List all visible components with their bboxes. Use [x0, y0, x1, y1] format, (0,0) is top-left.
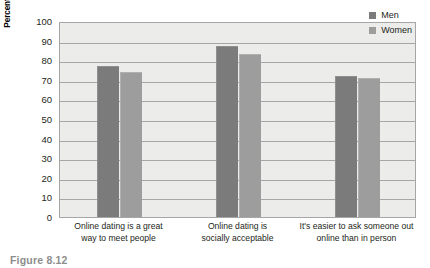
- legend-label: Men: [381, 10, 399, 20]
- y-tick-label: 90: [41, 36, 52, 48]
- bar-men-3[interactable]: [335, 76, 357, 217]
- x-category-label-line: socially acceptable: [178, 233, 297, 245]
- bar-group: [216, 23, 261, 217]
- x-category-label-3: It's easier to ask someone outonline tha…: [297, 221, 416, 244]
- x-category-label-2: Online dating issocially acceptable: [178, 221, 297, 244]
- bar-group: [335, 23, 380, 217]
- y-tick-label: 10: [41, 192, 52, 204]
- y-tick-label: 40: [41, 134, 52, 146]
- y-axis-title: Percent agreeing with each statement: [0, 0, 16, 54]
- figure-caption: Figure 8.12: [10, 254, 68, 266]
- x-category-label-line: Online dating is a great: [59, 221, 178, 233]
- bars-layer: [60, 23, 415, 217]
- y-tick-label: 80: [41, 55, 52, 67]
- y-tick-label: 70: [41, 75, 52, 87]
- y-tick-label: 20: [41, 173, 52, 185]
- x-category-label-line: It's easier to ask someone out: [297, 221, 416, 233]
- legend-item-women[interactable]: Women: [369, 23, 412, 37]
- legend: MenWomen: [367, 6, 416, 40]
- bar-women-3[interactable]: [358, 78, 380, 217]
- x-category-label-1: Online dating is a greatway to meet peop…: [59, 221, 178, 244]
- x-category-label-line: Online dating is: [178, 221, 297, 233]
- plot-area: [59, 22, 416, 218]
- y-tick-label: 60: [41, 94, 52, 106]
- y-tick-label: 0: [47, 212, 52, 224]
- legend-swatch-icon: [369, 12, 376, 19]
- y-tick-label: 30: [41, 153, 52, 165]
- bar-women-1[interactable]: [120, 72, 142, 217]
- legend-swatch-icon: [369, 27, 376, 34]
- legend-item-men[interactable]: Men: [369, 8, 412, 22]
- bar-men-1[interactable]: [97, 66, 119, 217]
- y-tick-label: 50: [41, 114, 52, 126]
- y-axis-tick-labels: 1009080706050403020100: [24, 22, 56, 218]
- x-category-label-line: online than in person: [297, 233, 416, 245]
- x-category-label-line: way to meet people: [59, 233, 178, 245]
- x-axis-category-labels: Online dating is a greatway to meet peop…: [59, 221, 416, 247]
- bar-men-2[interactable]: [216, 46, 238, 217]
- legend-label: Women: [381, 25, 412, 35]
- bar-women-2[interactable]: [239, 54, 261, 217]
- y-tick-label: 100: [36, 16, 52, 28]
- bar-group: [97, 23, 142, 217]
- figure-container: Percent agreeing with each statement 100…: [0, 0, 430, 268]
